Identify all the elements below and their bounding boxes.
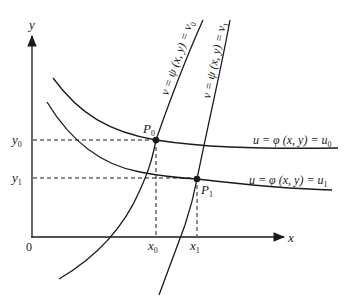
v0-equation-label: v = ψ (x, y) = v0 [158, 19, 199, 98]
x-axis-label: x [287, 230, 294, 245]
point-p1 [194, 176, 201, 183]
y-axis-label: y [27, 17, 35, 32]
p0-label: P0 [142, 121, 155, 138]
x1-tick-label: x1 [189, 238, 200, 255]
origin-label: 0 [26, 240, 32, 254]
level-curves-diagram: y x 0 P0 P1 y0 y1 x0 x1 u = φ (x, y) = u… [0, 0, 345, 307]
x0-tick-label: x0 [147, 238, 158, 255]
p1-label: P1 [200, 182, 213, 199]
u1-equation-label: u = φ (x, y) = u1 [249, 173, 327, 189]
u0-equation-label: u = φ (x, y) = u0 [253, 133, 331, 149]
v1-equation-label: v = ψ (x, y) = v1 [199, 20, 231, 100]
projection-lines [33, 140, 197, 236]
y1-tick-label: y1 [10, 170, 22, 187]
y0-tick-label: y0 [10, 132, 22, 149]
